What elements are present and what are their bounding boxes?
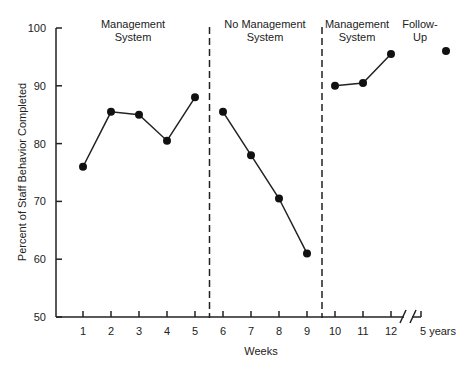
axes (56, 28, 421, 323)
phase-label: System (115, 31, 152, 43)
x-tick-label: 3 (136, 325, 142, 337)
phase-dividers (210, 27, 323, 318)
x-tick-label: 7 (248, 325, 254, 337)
x-tick-label: 5 years (420, 325, 457, 337)
data-point (191, 93, 199, 101)
x-axis-label: Weeks (244, 345, 278, 357)
data-point (387, 50, 395, 58)
data-point (107, 108, 115, 116)
data-point (219, 108, 227, 116)
y-tick-label: 100 (28, 22, 46, 34)
y-tick-label: 90 (34, 80, 46, 92)
y-tick-label: 80 (34, 138, 46, 150)
phase-label: Up (413, 31, 427, 43)
x-tick-label: 5 (192, 325, 198, 337)
x-tick-label: 9 (304, 325, 310, 337)
x-tick-label: 6 (220, 325, 226, 337)
data-series (79, 47, 450, 257)
data-point (331, 82, 339, 90)
series-line (223, 112, 307, 254)
data-point (135, 111, 143, 119)
x-tick-label: 4 (164, 325, 170, 337)
data-point (275, 195, 283, 203)
x-tick-label: 2 (108, 325, 114, 337)
data-point (359, 79, 367, 87)
chart: 50607080901001234567891011125 years Mana… (0, 0, 471, 371)
phase-label: System (339, 31, 376, 43)
x-tick-label: 11 (357, 325, 368, 337)
y-tick-label: 50 (34, 311, 46, 323)
y-tick-label: 70 (34, 195, 46, 207)
y-tick-label: 60 (34, 253, 46, 265)
x-tick-label: 8 (276, 325, 282, 337)
phase-label: System (247, 31, 284, 43)
data-point (303, 249, 311, 257)
phase-label: No Management (224, 18, 305, 30)
phase-label: Follow- (402, 18, 438, 30)
x-tick-label: 10 (329, 325, 341, 337)
series-line (83, 97, 195, 166)
phase-label: Management (101, 18, 165, 30)
y-axis-label: Percent of Staff Behavior Completed (16, 83, 28, 261)
data-point (442, 47, 450, 55)
x-tick-label: 12 (385, 325, 397, 337)
data-point (163, 137, 171, 145)
data-point (79, 163, 87, 171)
phase-labels: ManagementSystemNo ManagementSystemManag… (101, 18, 438, 43)
phase-label: Management (325, 18, 389, 30)
axis-ticks: 50607080901001234567891011125 years (28, 22, 457, 337)
data-point (247, 151, 255, 159)
x-tick-label: 1 (80, 325, 86, 337)
